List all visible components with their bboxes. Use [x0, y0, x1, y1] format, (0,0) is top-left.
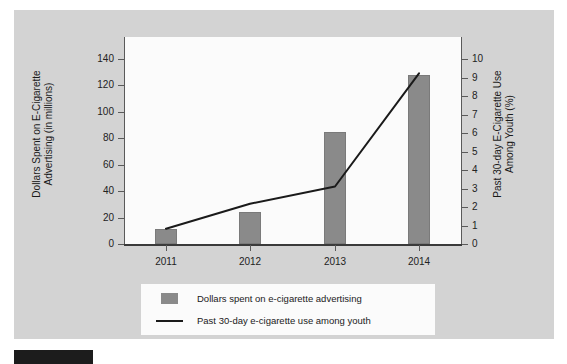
- legend-line-swatch-icon: [156, 320, 183, 322]
- bottom-source-tab: [14, 350, 93, 364]
- right-tick-label: 4: [472, 165, 478, 175]
- right-tick-label: 10: [472, 54, 483, 64]
- right-tick-label: 2: [472, 202, 478, 212]
- legend-item-advertising: Dollars spent on e-cigarette advertising: [141, 288, 435, 310]
- left-tick-label: 120: [97, 80, 114, 90]
- left-tick-label: 0: [108, 239, 114, 249]
- x-tick-label-2013: 2013: [305, 256, 365, 267]
- right-tick-label: 5: [472, 147, 478, 157]
- x-tick-label-2011: 2011: [136, 256, 196, 267]
- left-axis-title: Dollars Spent on E-Cigarette Advertising…: [31, 44, 55, 224]
- right-tick-label: 3: [472, 184, 478, 194]
- x-tick-label-2012: 2012: [220, 256, 280, 267]
- left-tick-label: 140: [97, 54, 114, 64]
- legend-label-advertising: Dollars spent on e-cigarette advertising: [197, 292, 362, 305]
- right-tick-label: 0: [472, 239, 478, 249]
- chart-panel: Dollars Spent on E-Cigarette Advertising…: [14, 10, 554, 339]
- chart-legend: Dollars spent on e-cigarette advertising…: [141, 284, 435, 335]
- left-tick-label: 80: [103, 133, 114, 143]
- legend-bar-swatch-icon: [161, 293, 178, 304]
- left-tick-label: 100: [97, 107, 114, 117]
- left-tick-label: 60: [103, 160, 114, 170]
- right-tick-label: 9: [472, 73, 478, 83]
- legend-label-youth-use: Past 30-day e-cigarette use among youth: [197, 314, 371, 327]
- line-series: [124, 37, 462, 245]
- right-axis-title: Past 30-day E-Cigarette Use Among Youth …: [492, 44, 516, 224]
- left-tick-label: 20: [103, 213, 114, 223]
- legend-item-youth-use: Past 30-day e-cigarette use among youth: [141, 310, 435, 332]
- x-tick-label-2014: 2014: [389, 256, 449, 267]
- right-tick-label: 8: [472, 91, 478, 101]
- right-tick-label: 7: [472, 110, 478, 120]
- right-tick-label: 1: [472, 221, 478, 231]
- right-tick-label: 6: [472, 128, 478, 138]
- left-tick-label: 40: [103, 186, 114, 196]
